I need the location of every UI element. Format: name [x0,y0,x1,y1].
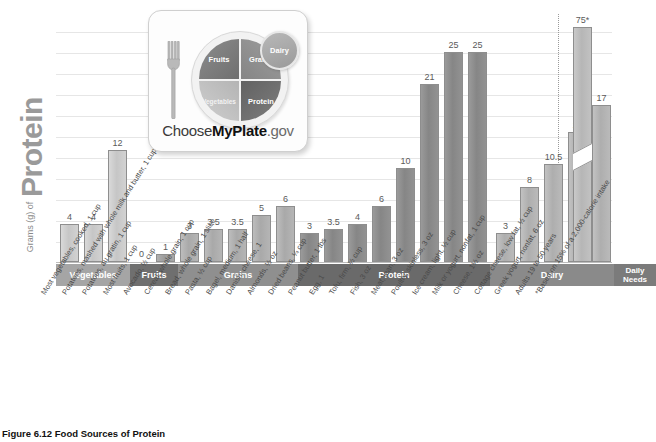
plate-section-dairy: Dairy [260,31,299,70]
bar: 6 [372,206,391,262]
gridline [56,116,612,117]
bar-value-label: 5 [259,203,264,213]
plate-label-vegetables: Vegetables [199,98,239,105]
bar: 3.5 [324,229,343,262]
myplate-logo: Fruits Grains Vegetables Protein Dairy C… [148,10,308,152]
plate-label-fruits: Fruits [199,55,239,64]
gridline [56,137,612,138]
bar-value-label: 75* [576,15,590,25]
bar-value-label: 10.5 [545,152,563,162]
gridline [56,53,612,54]
myplate-wordmark: ChooseMyPlate.gov [149,122,307,139]
gridline [56,95,612,96]
bar-value-label: 3 [503,221,508,231]
category-band: DailyNeeds [614,264,656,286]
bar-value-label: 6 [379,194,384,204]
bar-value-label: 25 [472,40,482,50]
plate-label-dairy: Dairy [270,46,289,55]
axis-break-mark [573,143,592,171]
gridline [56,158,612,159]
plate-label-protein: Protein [241,97,281,106]
bar-value-label: 4 [67,212,72,222]
y-axis-title: Protein Grams (g) of [2,72,48,272]
bar-value-label: 3 [307,221,312,231]
plate-section-fruits: Fruits [199,39,239,79]
bar-value-label: 12 [112,138,122,148]
wordmark-choose: Choose [162,122,212,139]
bar-value-label: 8 [527,175,532,185]
bar-value-label: 10 [400,156,410,166]
bar-value-label: 4 [355,212,360,222]
wordmark-myplate: MyPlate [212,122,267,139]
bar-value-label: 25 [448,40,458,50]
plot-area: 44120133.53.55633.546102125253810.514177… [56,14,612,263]
plate-section-vegetables: Vegetables [199,81,239,121]
bar-value-label: 3.5 [231,217,244,227]
bar-value-label: 21 [424,72,434,82]
gridline [56,32,612,33]
figure-caption: Figure 6.12 Food Sources of Protein [2,428,165,439]
fork-icon [167,41,180,119]
bar-value-label: 6 [283,194,288,204]
x-axis-labels: Most vegetables, cooked, 1 cupPotatoes, … [0,288,630,408]
y-axis-title-small: Grams (g) of [25,167,35,287]
plate-section-protein: Protein [241,81,281,121]
bar-value-label: 3.5 [327,217,340,227]
wordmark-gov: .gov [267,122,294,139]
bar-value-label: 17 [596,93,606,103]
gridline [56,74,612,75]
